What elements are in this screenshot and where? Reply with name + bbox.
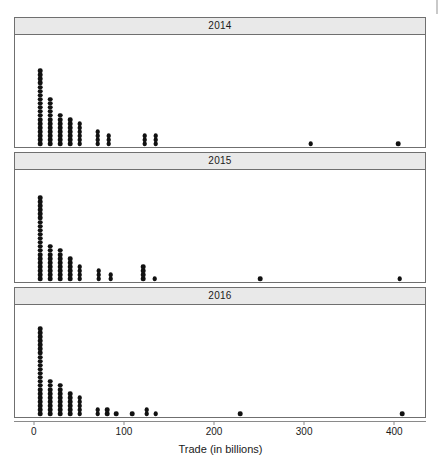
data-point [141,272,146,277]
data-point [38,85,43,90]
data-point [38,367,43,372]
data-point [38,277,43,282]
data-point [153,137,158,142]
data-point [152,277,157,282]
data-point [48,260,53,265]
strip-header-2014: 2014 [14,17,426,35]
data-point [38,399,43,404]
data-point [96,142,101,147]
data-point [38,117,43,122]
data-point [58,129,63,134]
data-point [38,248,43,253]
data-point [38,93,43,98]
data-point [58,399,63,404]
data-point [58,142,63,147]
data-point [68,407,73,412]
data-point [48,248,53,253]
data-point [58,264,63,269]
data-point [48,121,53,126]
data-point [38,137,43,142]
data-point [48,97,53,102]
data-point [58,133,63,138]
data-point [97,272,102,277]
data-point [142,133,147,138]
axis-tick [33,421,34,425]
data-point [38,412,43,417]
data-point [58,137,63,142]
data-point [58,252,63,257]
data-point [38,129,43,134]
data-point [58,412,63,417]
data-point [48,403,53,408]
data-point [58,277,63,282]
data-point [141,268,146,273]
axis-tick [394,421,395,425]
data-point [78,407,83,412]
data-point [48,105,53,110]
data-point [108,277,113,282]
x-axis: 0100200300400 [14,421,426,441]
strip-header-2015: 2015 [14,152,426,170]
data-point [68,125,73,130]
data-point [48,399,53,404]
data-point [48,277,53,282]
strip-label-2015: 2015 [208,156,231,166]
data-point [68,133,73,138]
data-point [68,268,73,273]
data-point [38,355,43,360]
data-point [78,125,83,130]
data-point [48,129,53,134]
plot-area-2016 [14,305,426,418]
data-point [38,73,43,78]
data-point [38,77,43,82]
data-point [38,383,43,388]
data-point [78,412,83,417]
data-point [68,391,73,396]
panel-2015: 2015 [14,152,426,283]
panel-2014: 2014 [14,17,426,148]
data-point [153,412,158,417]
data-point [58,121,63,126]
data-point [38,240,43,245]
data-point [38,326,43,331]
data-point [38,216,43,221]
data-point [38,268,43,273]
data-point [48,412,53,417]
data-point [97,268,102,273]
data-point [68,129,73,134]
data-point [141,277,146,282]
data-point [48,387,53,392]
data-point [78,137,83,142]
axis-tick [123,421,124,425]
data-point [238,412,243,417]
data-point [106,133,111,138]
data-point [38,113,43,118]
data-point [397,277,402,282]
data-point [38,351,43,356]
data-point [48,109,53,114]
plot-area-2014 [14,35,426,148]
data-point [48,383,53,388]
data-point [96,407,101,412]
data-point [153,142,158,147]
data-point [78,403,83,408]
data-point [68,264,73,269]
data-point [48,142,53,147]
data-point [38,125,43,130]
panel-2016: 2016 [14,287,426,418]
data-point [68,412,73,417]
data-point [105,407,110,412]
x-axis-line [14,421,426,422]
data-point [78,395,83,400]
data-point [58,395,63,400]
data-point [96,129,101,134]
strip-label-2014: 2014 [208,21,231,31]
data-point [108,272,113,277]
data-point [78,268,83,273]
data-point [38,109,43,114]
data-point [142,142,147,147]
axis-tick-label: 100 [116,427,133,437]
data-point [38,121,43,126]
data-point [68,272,73,277]
data-point [38,224,43,229]
